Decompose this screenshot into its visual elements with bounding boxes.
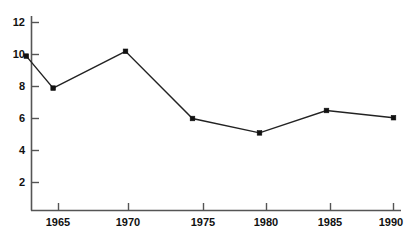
chart-canvas: 12 10 8 6 4 2 1965 1970 1975 1980 1985 1… (0, 0, 405, 239)
data-point-1964 (51, 86, 56, 91)
data-point-1990 (391, 115, 396, 120)
line-chart: 12 10 8 6 4 2 1965 1970 1975 1980 1985 1… (0, 0, 405, 239)
data-point-1970 (123, 49, 128, 54)
x-tick-label-1965: 1965 (46, 216, 70, 228)
data-point-1962 (24, 54, 29, 59)
y-tick-label-2: 2 (19, 176, 25, 188)
x-tick-label-1980: 1980 (254, 216, 278, 228)
y-tick-label-10: 10 (13, 48, 25, 60)
y-tick-label-6: 6 (19, 112, 25, 124)
x-tick-label-1975: 1975 (191, 216, 215, 228)
x-tick-label-1970: 1970 (116, 216, 140, 228)
chart-background (0, 0, 405, 239)
data-point-1985 (324, 108, 329, 113)
data-point-1980 (257, 131, 262, 136)
y-tick-label-12: 12 (13, 16, 25, 28)
x-tick-label-1985: 1985 (318, 216, 342, 228)
x-tick-label-1990: 1990 (379, 216, 403, 228)
data-point-1975 (190, 116, 195, 121)
y-tick-label-8: 8 (19, 80, 25, 92)
y-tick-label-4: 4 (19, 144, 26, 156)
